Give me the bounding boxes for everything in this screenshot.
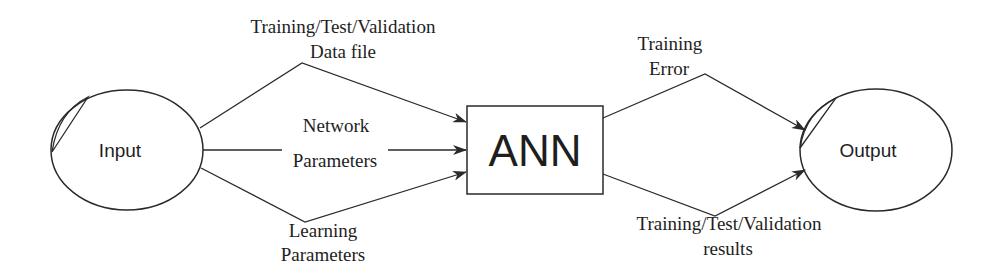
results-label-line2: results	[703, 238, 753, 259]
training-error-arrow	[603, 74, 805, 130]
data-file-label-line1: Training/Test/Validation	[251, 16, 436, 37]
edge-network-parameters: Network Parameters	[203, 115, 466, 171]
ann-node: ANN	[467, 106, 603, 194]
output-node: Output	[800, 89, 952, 211]
training-error-label-line2: Error	[649, 58, 690, 79]
output-label: Output	[839, 140, 897, 161]
learning-params-label-line1: Learning	[289, 220, 358, 241]
edge-data-file: Training/Test/Validation Data file	[200, 16, 466, 128]
network-params-label-line2: Parameters	[293, 150, 377, 171]
edge-results: Training/Test/Validation results	[603, 170, 822, 259]
results-label-line1: Training/Test/Validation	[637, 213, 822, 234]
input-label: Input	[99, 140, 142, 161]
data-file-label-line2: Data file	[310, 41, 376, 62]
ann-flow-diagram: Input ANN Output Training/Test/Validatio…	[0, 0, 1000, 276]
edge-learning-parameters: Learning Parameters	[201, 168, 466, 265]
learning-params-label-line2: Parameters	[281, 244, 365, 265]
input-node: Input	[51, 90, 203, 210]
learning-params-arrow	[201, 168, 466, 222]
network-params-label-line1: Network	[303, 115, 370, 136]
training-error-label-line1: Training	[638, 33, 703, 54]
ann-label: ANN	[489, 126, 582, 175]
results-arrow	[603, 170, 805, 216]
edge-training-error: Training Error	[603, 33, 805, 130]
